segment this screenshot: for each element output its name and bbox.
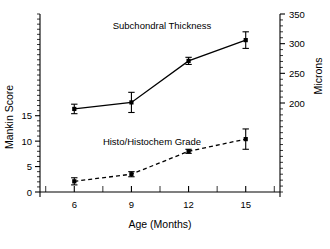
x-tick-label: 15 (240, 199, 251, 210)
y-axis-right-title: Microns (312, 58, 324, 95)
x-tick-label: 12 (183, 199, 194, 210)
x-tick-label: 6 (72, 199, 77, 210)
data-point-marker (72, 107, 76, 111)
series-label-histo-histochem-grade: Histo/Histochem Grade (103, 136, 201, 147)
y-axis-left-title: Mankin Score (3, 85, 15, 149)
series-line-1 (74, 40, 245, 109)
y-right-tick-label: 350 (289, 9, 305, 20)
y-left-tick-label: 10 (21, 136, 32, 147)
y-right-tick-label: 250 (289, 68, 305, 79)
y-right-tick-label: 300 (289, 38, 305, 49)
data-point-marker (72, 179, 76, 183)
y-left-tick-label: 15 (21, 110, 32, 121)
data-point-marker (244, 38, 248, 42)
data-point-marker (186, 59, 190, 63)
x-axis-title: Age (Months) (128, 218, 191, 230)
data-point-marker (129, 100, 133, 104)
x-tick-label: 9 (129, 199, 134, 210)
data-point-marker (244, 137, 248, 141)
y-left-tick-label: 0 (27, 187, 32, 198)
series-label-subchondral-thickness: Subchondral Thickness (113, 20, 212, 31)
data-point-marker (186, 149, 190, 153)
y-right-tick-label: 200 (289, 98, 305, 109)
data-point-marker (129, 172, 133, 176)
y-left-tick-label: 5 (27, 161, 32, 172)
chart-figure: 691215Age (Months)051015Mankin Score2002… (0, 0, 330, 249)
chart-canvas: 691215Age (Months)051015Mankin Score2002… (0, 0, 330, 249)
